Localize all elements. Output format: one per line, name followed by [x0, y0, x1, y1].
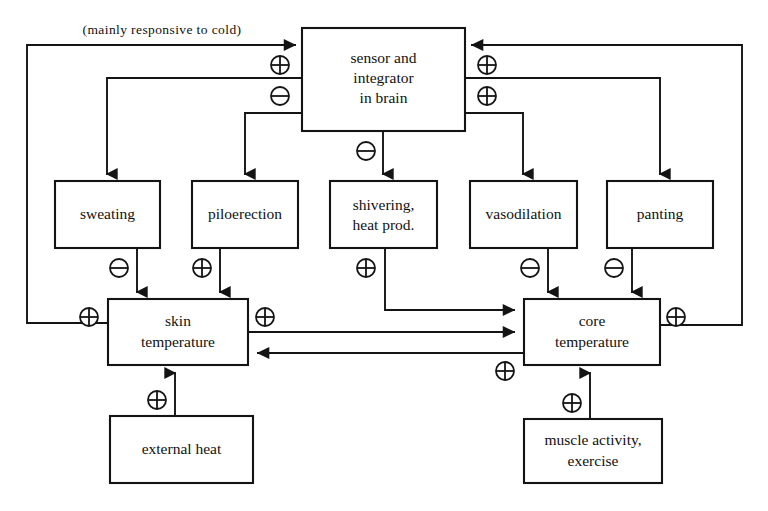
- node-muscle-activity-label-line1: muscle activity,: [544, 431, 641, 448]
- thermoregulation-diagram: sensor and integrator in brain sweating …: [0, 0, 768, 511]
- sign-vasodilation-to-core-minus: [521, 259, 539, 277]
- node-brain-label-line2: integrator: [353, 69, 414, 86]
- node-piloerection-label: piloerection: [208, 205, 282, 222]
- node-external-heat: external heat: [110, 416, 253, 483]
- diagram-canvas: sensor and integrator in brain sweating …: [0, 0, 768, 511]
- node-brain-label-line1: sensor and: [351, 49, 417, 66]
- sign-skin-right-output-plus: [256, 308, 274, 326]
- node-shivering-label-line2: heat prod.: [353, 216, 415, 233]
- node-panting: panting: [607, 181, 713, 248]
- sign-core-right-output-plus: [667, 308, 685, 326]
- sign-brain-to-shivering-minus: [357, 142, 375, 160]
- node-shivering-box: [330, 181, 437, 248]
- node-brain-label-line3: in brain: [360, 89, 408, 106]
- node-skin-temperature-label-line2: temperature: [141, 333, 215, 350]
- node-muscle-activity: muscle activity, exercise: [524, 419, 662, 483]
- node-vasodilation-label: vasodilation: [486, 205, 562, 222]
- edge-brain-to-vasodilation: [465, 113, 523, 174]
- sign-external-heat-to-skin-plus: [148, 391, 166, 409]
- node-panting-label: panting: [637, 205, 684, 222]
- node-vasodilation: vasodilation: [470, 181, 577, 248]
- edge-brain-to-piloerection: [245, 113, 302, 174]
- sign-muscle-activity-to-core-plus: [563, 394, 581, 412]
- node-shivering-label-line1: shivering,: [353, 196, 415, 213]
- sign-panting-to-core-minus: [605, 259, 623, 277]
- sign-sweating-to-skin-minus: [110, 259, 128, 277]
- sign-skin-to-brain-plus: [271, 56, 289, 74]
- note-mainly-responsive-to-cold: (mainly responsive to cold): [83, 22, 242, 37]
- node-shivering: shivering, heat prod.: [330, 181, 437, 248]
- sign-piloerection-to-skin-plus: [193, 259, 211, 277]
- sign-brain-to-effectors-minus: [271, 87, 289, 105]
- sign-core-to-skin-plus: [496, 362, 514, 380]
- node-sweating: sweating: [55, 181, 160, 248]
- node-core-temperature-label-line2: temperature: [555, 333, 629, 350]
- node-muscle-activity-label-line2: exercise: [568, 452, 619, 469]
- sign-core-to-brain-upper-plus: [478, 56, 496, 74]
- node-core-temperature: core temperature: [524, 299, 660, 365]
- node-piloerection: piloerection: [192, 181, 298, 248]
- node-external-heat-label: external heat: [142, 440, 222, 457]
- node-core-temperature-label-line1: core: [579, 312, 606, 329]
- node-brain: sensor and integrator in brain: [302, 28, 465, 131]
- node-skin-temperature: skin temperature: [108, 299, 248, 365]
- node-sweating-label: sweating: [80, 205, 135, 222]
- sign-shivering-to-core-plus: [357, 259, 375, 277]
- edge-shivering-to-core: [385, 248, 514, 310]
- sign-skin-left-input-plus: [80, 308, 98, 326]
- sign-core-to-brain-lower-plus: [478, 87, 496, 105]
- node-skin-temperature-label-line1: skin: [165, 312, 191, 329]
